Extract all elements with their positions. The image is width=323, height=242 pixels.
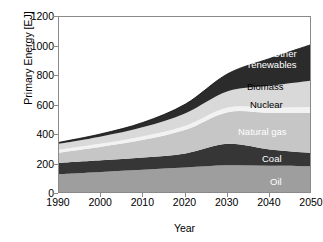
- band-label-biomass: Biomass: [247, 82, 283, 93]
- y-tick-label: 1000: [31, 40, 54, 52]
- x-tick-label: 2050: [288, 196, 323, 208]
- y-axis-title: Primary Energy [EJ]: [21, 0, 35, 148]
- x-tick-mark: [142, 193, 143, 197]
- y-tick-label: 400: [36, 128, 54, 140]
- chart-figure: Primary Energy [EJ] Year 020040060080010…: [0, 0, 323, 242]
- band-label-oil: Oil: [270, 177, 282, 188]
- y-tick-label: 800: [36, 69, 54, 81]
- x-tick-label: 2030: [204, 196, 250, 208]
- x-tick-label: 2000: [77, 196, 123, 208]
- y-tick-label: 600: [36, 99, 54, 111]
- x-tick-mark: [227, 193, 228, 197]
- y-tick-label: 1200: [31, 10, 54, 22]
- x-tick-mark: [269, 193, 270, 197]
- y-tick-label: 200: [36, 158, 54, 170]
- x-tick-label: 2040: [246, 196, 292, 208]
- x-tick-label: 1990: [35, 196, 81, 208]
- x-tick-mark: [185, 193, 186, 197]
- x-tick-mark: [100, 193, 101, 197]
- band-label-nuclear: Nuclear: [250, 100, 283, 111]
- x-axis-title: Year: [58, 222, 311, 234]
- x-tick-label: 2010: [119, 196, 165, 208]
- band-label-natural-gas: Natural gas: [238, 127, 287, 138]
- x-tick-label: 2020: [162, 196, 208, 208]
- y-tick-mark: [53, 193, 58, 194]
- band-label-coal: Coal: [262, 154, 282, 165]
- band-label-other-renewables: Otherrenewables: [248, 49, 297, 70]
- band-label-line-1: Other: [248, 49, 297, 60]
- band-label-line-2: renewables: [248, 60, 297, 71]
